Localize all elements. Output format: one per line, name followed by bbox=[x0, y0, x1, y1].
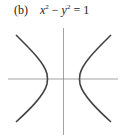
hyperbola-plot bbox=[0, 0, 127, 140]
right-branch bbox=[80, 35, 112, 122]
left-branch bbox=[16, 35, 48, 122]
